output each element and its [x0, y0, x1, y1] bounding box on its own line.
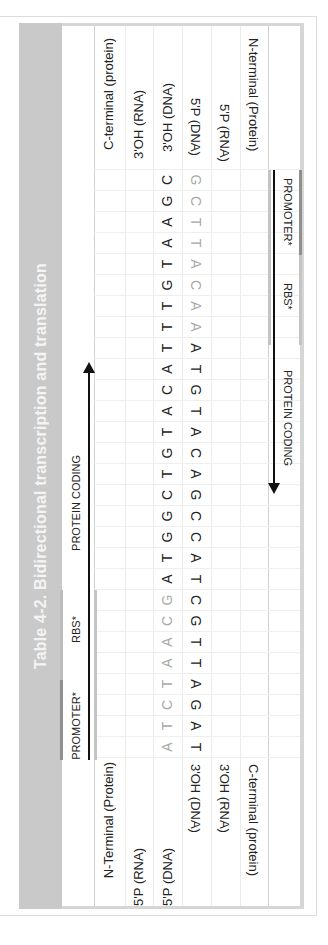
nucleotide: A	[157, 652, 177, 673]
nucleotide-letter: C	[159, 615, 175, 625]
nucleotide-letter: G	[159, 594, 175, 605]
nucleotide: T	[157, 673, 177, 694]
nucleotide: C	[157, 484, 177, 505]
nucleotide-letter: A	[188, 427, 204, 436]
nucleotide: G	[186, 694, 206, 715]
nucleotide: T	[186, 232, 206, 253]
nucleotide: A	[186, 673, 206, 694]
arrow-up-icon	[83, 362, 95, 373]
table-title-text: Table 4-2. Bidirectional transcription a…	[32, 263, 50, 669]
nucleotide-letter: A	[188, 343, 204, 352]
nucleotide-letter: G	[159, 195, 175, 206]
nucleotide: T	[186, 568, 206, 589]
nucleotide: C	[186, 526, 206, 547]
label-3oh-dna-left: 3'OH (DNA)	[188, 764, 203, 833]
nucleotide: G	[157, 274, 177, 295]
rbs-bar-right	[299, 255, 302, 345]
nucleotide: A	[186, 295, 206, 316]
nucleotide: A	[186, 715, 206, 736]
nucleotide: G	[157, 190, 177, 211]
nucleotide: G	[186, 484, 206, 505]
label-5p-dna-right: 5'P (DNA)	[188, 98, 203, 156]
nucleotide: T	[157, 337, 177, 358]
header-right-rbs: RBS*	[282, 283, 294, 310]
nucleotide-letter: T	[188, 238, 204, 247]
nucleotide: G	[186, 379, 206, 400]
nucleotide: A	[186, 253, 206, 274]
nucleotide: A	[186, 463, 206, 484]
nucleotide-letter: C	[188, 279, 204, 289]
nucleotide-letter: T	[159, 553, 175, 562]
nucleotide-letter: A	[159, 658, 175, 667]
nucleotide-letter: C	[159, 699, 175, 709]
nucleotide-letter: T	[159, 469, 175, 478]
nucleotide-letter: A	[159, 364, 175, 373]
nucleotide: A	[157, 736, 177, 757]
nucleotide: A	[186, 337, 206, 358]
grid-line	[268, 26, 269, 906]
nucleotide: C	[157, 610, 177, 631]
nucleotide: T	[186, 400, 206, 421]
nucleotide-letter: T	[159, 322, 175, 331]
nucleotide-letter: T	[159, 679, 175, 688]
nucleotide-letter: T	[188, 217, 204, 226]
nucleotide-letter: A	[159, 406, 175, 415]
nucleotide: T	[186, 358, 206, 379]
nucleotide-letter: T	[159, 343, 175, 352]
header-left-protein-coding: PROTEIN CODING	[70, 455, 82, 551]
arrow-line-right	[273, 170, 275, 485]
nucleotide: C	[186, 589, 206, 610]
nucleotide-letter: T	[159, 259, 175, 268]
nucleotide-letter: A	[159, 742, 175, 751]
nucleotide-letter: G	[188, 174, 204, 185]
nucleotide: T	[157, 715, 177, 736]
nucleotide-letter: T	[188, 364, 204, 373]
nucleotide: G	[157, 442, 177, 463]
nucleotide-letter: G	[188, 699, 204, 710]
nucleotide-letter: G	[188, 489, 204, 500]
nucleotide-letter: T	[188, 742, 204, 751]
nucleotide-letter: T	[188, 574, 204, 583]
nucleotide-letter: C	[188, 531, 204, 541]
header-right-promoter: PROMOTER*	[282, 178, 294, 246]
nucleotide-letter: A	[188, 553, 204, 562]
promoter-bar-left	[60, 680, 63, 760]
nucleotide-letter: T	[159, 427, 175, 436]
label-c-terminal-protein-left: C-terminal (protein)	[246, 764, 261, 876]
nucleotide-letter: A	[188, 322, 204, 331]
nucleotide: A	[157, 400, 177, 421]
nucleotide-letter: G	[159, 531, 175, 542]
header-right-protein-coding: PROTEIN CODING	[282, 370, 294, 466]
region-bar-left	[94, 590, 97, 760]
label-n-terminal-protein-right: N-terminal (Protein)	[246, 38, 261, 151]
nucleotide: T	[186, 652, 206, 673]
nucleotide: C	[186, 274, 206, 295]
nucleotide-letter: C	[188, 510, 204, 520]
nucleotide-letter: A	[188, 259, 204, 268]
grid-line	[211, 26, 212, 906]
grid-line	[94, 26, 95, 906]
nucleotide: G	[157, 526, 177, 547]
nucleotide-letter: T	[159, 301, 175, 310]
nucleotide: C	[157, 169, 177, 190]
grid-line	[94, 757, 300, 758]
nucleotide: A	[186, 547, 206, 568]
nucleotide: A	[186, 421, 206, 442]
nucleotide-letter: T	[188, 637, 204, 646]
grid-line	[153, 26, 154, 906]
label-5p-dna: 5'P (DNA)	[160, 848, 175, 906]
nucleotide-letter: A	[188, 679, 204, 688]
nucleotide-letter: T	[188, 406, 204, 415]
table-title: Table 4-2. Bidirectional transcription a…	[19, 23, 62, 909]
label-c-terminal-protein: C-terminal (protein)	[101, 38, 116, 150]
arrow-down-icon	[268, 483, 280, 494]
nucleotide: T	[157, 547, 177, 568]
nucleotide: T	[157, 295, 177, 316]
nucleotide-letter: C	[159, 489, 175, 499]
grid-line	[182, 26, 183, 906]
nucleotide: A	[157, 211, 177, 232]
nucleotide: A	[157, 631, 177, 652]
region-bar-right	[268, 170, 271, 345]
nucleotide-letter: A	[159, 238, 175, 247]
label-3oh-rna: 3'OH (RNA)	[131, 90, 146, 159]
